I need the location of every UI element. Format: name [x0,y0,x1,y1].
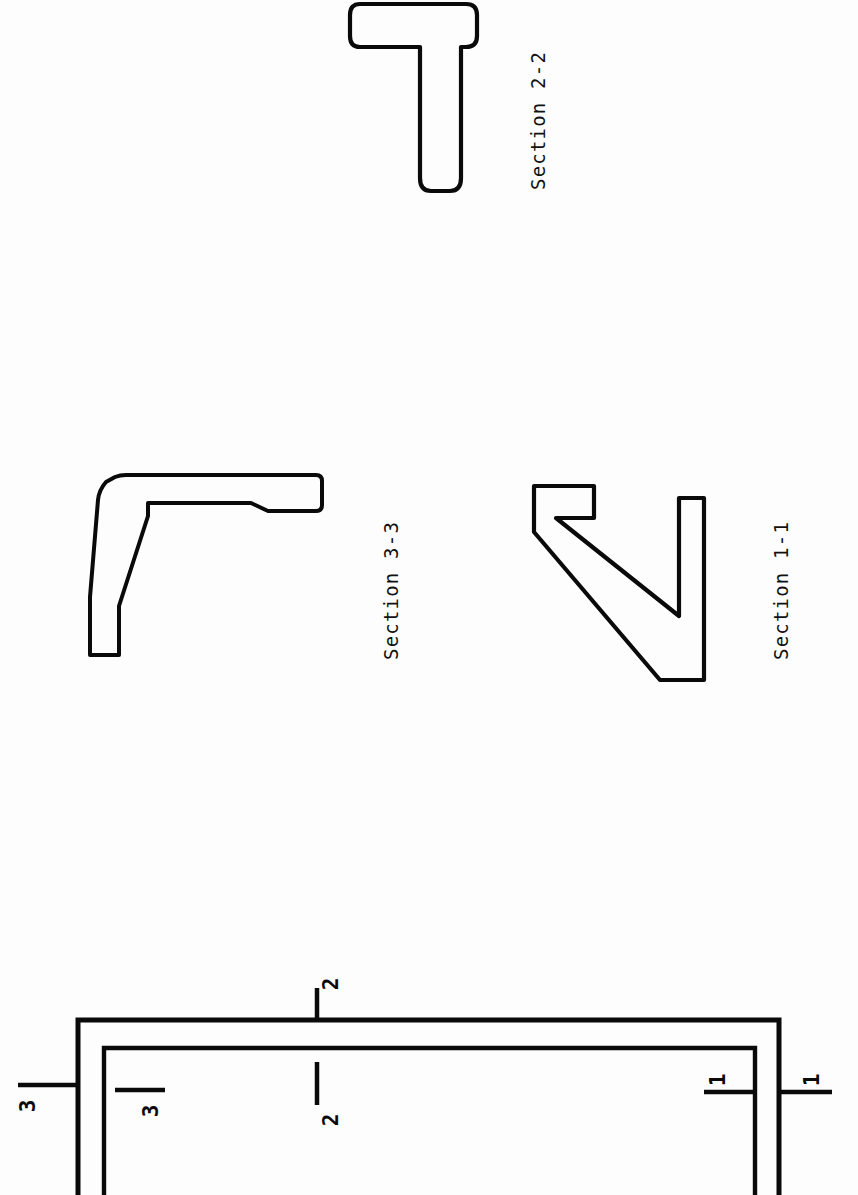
section-3-3-shape [90,475,322,655]
plan-inner-rectangle [104,1048,755,1195]
section-marker-3-inner: 3 [139,1105,163,1118]
section-marker-2-upper: 2 [319,978,343,991]
section-marker-3-outer: 3 [16,1100,40,1113]
section-1-1-shape [534,486,704,680]
section-marker-1-outer: 1 [800,1074,824,1087]
drawing-page: Section 2-2 Section 3-3 Section 1-1 3 3 … [0,0,858,1195]
section-marker-2-lower: 2 [319,1114,343,1127]
plan-view-outline [78,1020,779,1195]
caption-section-1-1: Section 1-1 [770,521,792,660]
drawing-canvas [0,0,858,1195]
section-marker-1-inner: 1 [706,1074,730,1087]
caption-section-2-2: Section 2-2 [527,51,549,190]
section-2-2-shape [350,4,477,191]
caption-section-3-3: Section 3-3 [380,521,402,660]
